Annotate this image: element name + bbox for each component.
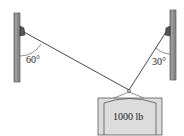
left-bracket (20, 26, 25, 36)
diagram-canvas (0, 0, 184, 136)
left-angle-label: 60° (26, 55, 40, 65)
right-angle-arc (156, 48, 170, 54)
right-post (170, 10, 176, 80)
weight-label: 1000 lb (113, 112, 143, 122)
left-post (14, 13, 20, 82)
right-angle-label: 30° (152, 57, 166, 67)
right-bracket (165, 26, 170, 36)
